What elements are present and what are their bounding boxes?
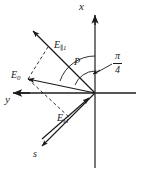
fraction-numerator-pi: π (114, 51, 121, 62)
subscript-parallel-1: ∥1 (60, 44, 66, 51)
vector-diagram-figure: x y s P E∥1 E0 Es1 π 4 (0, 0, 146, 172)
subscript-zero: 0 (17, 74, 20, 81)
point-label-p: P (74, 57, 80, 67)
vector-label-e-zero: E0 (11, 70, 20, 81)
subscript-s1: s1 (63, 117, 69, 124)
axis-label-x: x (79, 1, 84, 12)
fraction-denominator-four: 4 (114, 65, 121, 76)
vector-label-e-parallel-1: E∥1 (54, 40, 66, 51)
vector-label-e-s-1: Es1 (57, 113, 69, 124)
axis-label-y: y (5, 94, 10, 105)
diagram-canvas (0, 0, 146, 172)
angle-leader-line (93, 64, 112, 74)
angle-value-pi-over-four: π 4 (113, 51, 122, 75)
construction-lines (28, 47, 70, 118)
vector-e-zero (28, 79, 95, 93)
axis-label-s: s (33, 149, 37, 159)
